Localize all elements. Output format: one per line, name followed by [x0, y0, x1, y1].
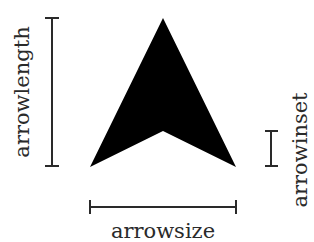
- arrow-head-shape: [90, 18, 236, 167]
- arrowsize-label: arrowsize: [111, 219, 215, 242]
- arrowlength-label: arrowlength: [10, 26, 34, 157]
- arrowinset-label: arrowinset: [288, 92, 312, 208]
- arrowsize-dimension: [90, 200, 236, 214]
- arrowlength-dimension: [45, 18, 59, 166]
- arrow-dimension-diagram: arrowlength arrowinset arrowsize: [0, 0, 314, 242]
- arrowinset-dimension: [265, 131, 278, 166]
